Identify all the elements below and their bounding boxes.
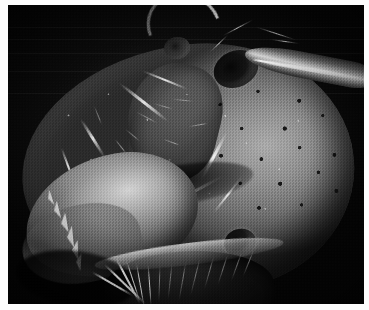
figure-root [0, 0, 369, 310]
sem-micrograph-plate [8, 5, 364, 304]
